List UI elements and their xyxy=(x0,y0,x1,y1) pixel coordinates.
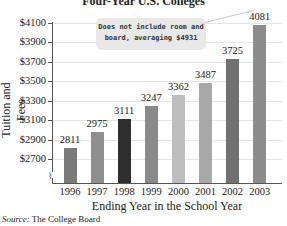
x-tick-label: 1998 xyxy=(109,186,139,197)
y-tick-mark xyxy=(48,101,53,102)
y-tick-label: $2900 xyxy=(14,135,46,145)
bar-2001 xyxy=(199,83,212,183)
chart-root: Four-Year U.S. Colleges Tuition and Fees… xyxy=(0,0,287,226)
x-tick-label: 1999 xyxy=(136,186,166,197)
x-axis-label: Ending Year in the School Year xyxy=(52,199,282,214)
x-tick-label: 2003 xyxy=(245,186,275,197)
bar-2000 xyxy=(172,95,185,183)
x-tick-label: 2000 xyxy=(163,186,193,197)
value-label: 3111 xyxy=(106,105,142,116)
value-label: 2811 xyxy=(52,134,88,145)
y-tick-mark xyxy=(48,120,53,121)
x-tick-label: 2002 xyxy=(218,186,248,197)
chart-title: Four-Year U.S. Colleges xyxy=(0,0,287,9)
callout-line-2: board, averaging $4931 xyxy=(96,33,206,44)
y-tick-label: $3900 xyxy=(14,37,46,47)
bar-1998 xyxy=(118,119,131,183)
annotation-callout: Does not include room and board, averagi… xyxy=(96,18,206,50)
y-tick-label: $4100 xyxy=(14,18,46,28)
y-tick-mark xyxy=(48,81,53,82)
bar-2002 xyxy=(226,59,239,183)
y-tick-label: $3700 xyxy=(14,57,46,67)
source-prefix: Source: xyxy=(2,214,30,224)
bar-1997 xyxy=(91,132,104,183)
y-tick-mark xyxy=(48,62,53,63)
y-tick-mark xyxy=(48,23,53,24)
y-tick-label: $2700 xyxy=(14,154,46,164)
value-label: 2975 xyxy=(79,118,115,129)
value-label: 3487 xyxy=(188,69,224,80)
source-text: The College Board xyxy=(30,214,101,224)
callout-line-1: Does not include room and xyxy=(96,22,206,33)
y-tick-mark xyxy=(48,159,53,160)
bar-1999 xyxy=(145,106,158,183)
bar-2003 xyxy=(253,25,266,183)
x-tick-label: 2001 xyxy=(191,186,221,197)
y-tick-label: $3300 xyxy=(14,96,46,106)
x-tick-label: 1996 xyxy=(55,186,85,197)
axis-break-icon: ⌇ xyxy=(48,171,52,181)
y-axis-line xyxy=(52,22,53,172)
x-axis-line xyxy=(52,183,282,184)
value-label: 3362 xyxy=(160,81,196,92)
source-note: Source: The College Board xyxy=(2,214,100,224)
y-tick-label: $3100 xyxy=(14,115,46,125)
x-tick-label: 1997 xyxy=(82,186,112,197)
value-label: 3725 xyxy=(215,45,251,56)
y-tick-label: $3500 xyxy=(14,76,46,86)
value-label: 3247 xyxy=(133,92,169,103)
gridline xyxy=(52,62,282,63)
bar-1996 xyxy=(64,148,77,183)
gridline xyxy=(52,159,282,160)
y-tick-mark xyxy=(48,42,53,43)
